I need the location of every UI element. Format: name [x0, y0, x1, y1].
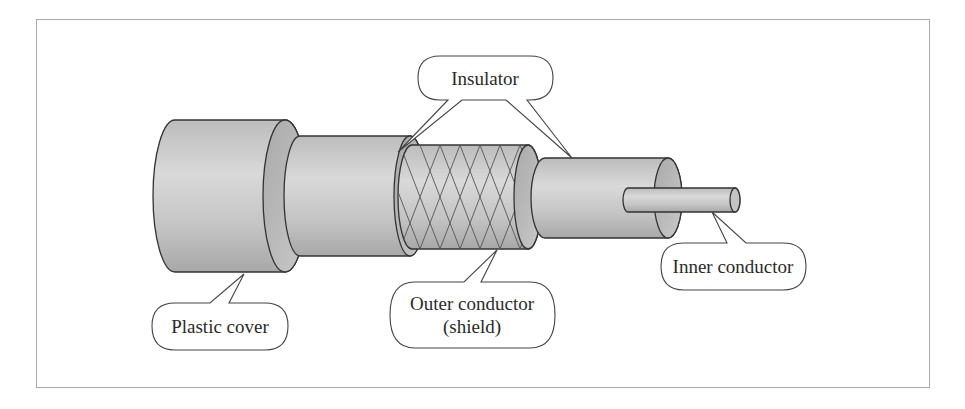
label-outer-conductor: Outer conductor: [410, 293, 535, 314]
callout-outer-conductor: Outer conductor (shield): [390, 250, 555, 348]
diagram-canvas: Insulator Plastic cover Outer conductor …: [0, 0, 965, 409]
callout-plastic-cover: Plastic cover: [152, 274, 288, 350]
coax-cable-illustration: Insulator Plastic cover Outer conductor …: [0, 0, 965, 409]
label-outer-conductor-shield: (shield): [443, 316, 501, 338]
callout-insulator: Insulator: [398, 56, 572, 158]
callout-inner-conductor: Inner conductor: [661, 212, 806, 290]
label-inner-conductor: Inner conductor: [673, 256, 794, 277]
inner-conductor-wire: [623, 188, 740, 212]
label-insulator: Insulator: [451, 68, 519, 89]
label-plastic-cover: Plastic cover: [171, 316, 269, 337]
